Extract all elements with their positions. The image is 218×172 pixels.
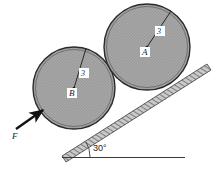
cylinder-a-radius-label: 3 (156, 27, 161, 36)
cylinder-b-radius-label: 3 (80, 69, 85, 78)
cylinder-a: 3 A (104, 4, 190, 90)
cylinder-b: 3 B (33, 47, 115, 129)
incline-angle-label: 30° (93, 143, 107, 153)
diagram-canvas: 30° 3 B 3 A F (0, 0, 218, 172)
cylinder-b-label: B (69, 88, 75, 98)
force-arrow (16, 110, 43, 129)
physics-diagram-figure: 30° 3 B 3 A F (0, 0, 218, 172)
force-label: F (11, 131, 18, 141)
cylinder-a-label: A (141, 47, 148, 57)
applied-force: F (11, 110, 43, 141)
